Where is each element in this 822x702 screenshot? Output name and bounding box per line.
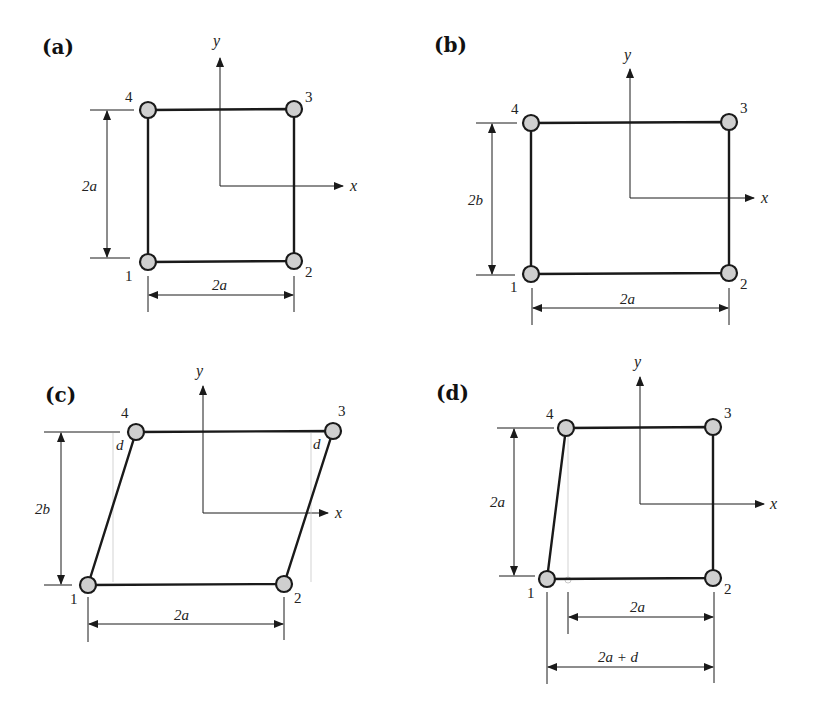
- node-2-a: [286, 253, 302, 269]
- panel-label-b: (b): [434, 33, 467, 57]
- node-label-1-d: 1: [527, 585, 535, 601]
- y-axis-label-a: y: [211, 32, 221, 50]
- coordinate-axes-b: y x: [622, 46, 768, 206]
- panel-b: (b) y x 2b 2a 1 2 3 4: [434, 33, 768, 325]
- node-1-b: [523, 266, 539, 282]
- offset-label-left-c: d: [116, 437, 124, 453]
- svg-text:2b: 2b: [468, 192, 484, 208]
- offset-label-right-c: d: [313, 436, 321, 452]
- svg-text:2a: 2a: [630, 599, 645, 615]
- node-3-a: [286, 101, 302, 117]
- node-label-1-a: 1: [125, 268, 133, 284]
- node-label-3-c: 3: [338, 403, 346, 419]
- dimension-horizontal-c: 2a: [88, 597, 284, 642]
- dimension-vertical-c: 2b: [35, 432, 120, 585]
- node-2-d: [705, 570, 721, 586]
- node-label-4-b: 4: [511, 101, 519, 117]
- x-axis-label-c: x: [334, 504, 342, 521]
- dimension-horizontal-d: 2a: [568, 592, 714, 683]
- node-label-4-d: 4: [546, 406, 554, 422]
- y-axis-label-d: y: [632, 353, 642, 371]
- x-axis-label-b: x: [760, 189, 768, 206]
- coordinate-axes-a: y x: [211, 32, 357, 194]
- element-outline-d: [547, 427, 713, 579]
- panel-label-a: (a): [42, 35, 74, 59]
- dimension-vertical-d: 2a: [488, 428, 554, 576]
- svg-text:2a: 2a: [620, 291, 635, 307]
- node-3-c: [325, 423, 341, 439]
- node-3-b: [721, 114, 737, 130]
- svg-text:2a: 2a: [490, 494, 505, 510]
- panel-label-c: (c): [45, 383, 76, 407]
- node-4-c: [128, 424, 144, 440]
- panel-a: (a) y x 2a 2a 1 2 3 4: [42, 32, 357, 312]
- dimension-horizontal-a: 2a: [148, 276, 294, 312]
- element-outline-c: [88, 431, 333, 585]
- svg-text:2a: 2a: [212, 277, 227, 293]
- node-label-3-a: 3: [305, 89, 313, 105]
- svg-text:2a: 2a: [82, 178, 97, 194]
- node-4-a: [140, 102, 156, 118]
- y-axis-label-b: y: [622, 46, 632, 64]
- node-1-a: [140, 254, 156, 270]
- svg-text:2a: 2a: [174, 607, 189, 623]
- panel-c: (c) y x 2b 2a d d 1 2 3 4: [35, 362, 346, 642]
- node-label-4-c: 4: [121, 405, 129, 421]
- node-4-d: [558, 420, 574, 436]
- node-label-2-a: 2: [305, 264, 313, 280]
- panel-label-d: (d): [436, 381, 469, 405]
- dimension-vertical-a: 2a: [80, 110, 134, 258]
- y-axis-label-c: y: [194, 362, 204, 380]
- node-label-4-a: 4: [125, 89, 133, 105]
- dimension-horizontal-b: 2a: [532, 288, 729, 325]
- node-2-c: [276, 576, 292, 592]
- node-label-3-d: 3: [724, 405, 732, 421]
- element-shapes-figure: (a) y x 2a 2a 1 2 3 4: [0, 0, 822, 702]
- node-label-3-b: 3: [740, 100, 748, 116]
- node-label-2-b: 2: [740, 276, 748, 292]
- node-label-2-d: 2: [724, 581, 732, 597]
- panel-d: (d) y x 2a 2a 2a + d: [436, 353, 777, 684]
- node-label-1-b: 1: [510, 279, 518, 295]
- svg-text:2a + d: 2a + d: [598, 649, 639, 665]
- node-1-d: [539, 571, 555, 587]
- dimension-vertical-b: 2b: [467, 123, 517, 275]
- node-label-1-c: 1: [70, 591, 78, 607]
- node-label-2-c: 2: [294, 590, 302, 606]
- x-axis-label-a: x: [349, 177, 357, 194]
- node-2-b: [721, 265, 737, 281]
- coordinate-axes-d: y x: [632, 353, 777, 512]
- node-1-c: [80, 577, 96, 593]
- node-4-b: [523, 115, 539, 131]
- node-3-d: [705, 419, 721, 435]
- x-axis-label-d: x: [769, 495, 777, 512]
- svg-text:2b: 2b: [35, 501, 51, 517]
